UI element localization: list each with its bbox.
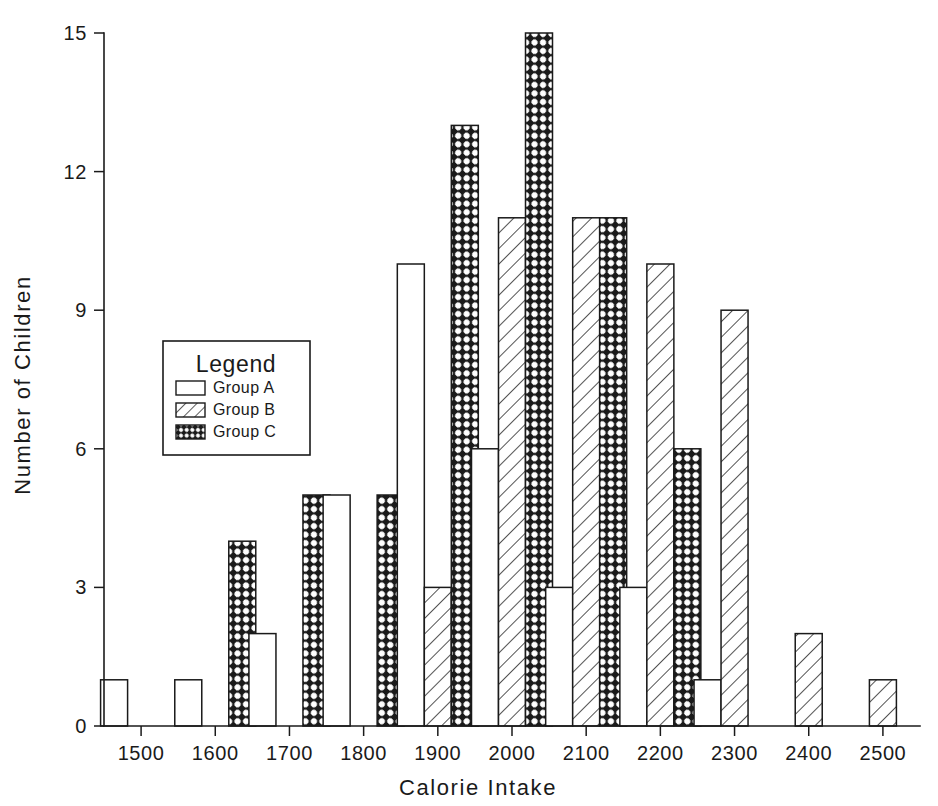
bar-group-b-1900 [424,587,451,726]
y-tick-label-6: 6 [75,438,87,460]
x-tick-label-2300: 2300 [711,742,758,764]
x-tick-label-1900: 1900 [414,742,461,764]
bar-group-a-2100 [546,587,573,726]
legend-swatch-group-b [176,403,205,417]
legend-title: Legend [196,351,276,377]
y-tick-label-15: 15 [64,22,87,44]
legend-label-group-c: Group C [213,423,276,440]
bar-group-a-1700 [249,634,276,726]
bar-group-a-2300 [694,680,721,726]
legend-swatch-group-a [176,381,205,395]
chart-legend: Legend Group A Group B Group C [163,341,310,455]
bar-group-b-2300 [721,310,748,726]
x-axis-title: Calorie Intake [399,775,557,800]
x-tick-label-2500: 2500 [859,742,906,764]
bar-group-a-1800 [323,495,350,726]
x-tick-label-2400: 2400 [785,742,832,764]
bar-group-b-2400 [795,634,822,726]
legend-label-group-a: Group A [213,379,275,396]
x-tick-label-1700: 1700 [266,742,313,764]
bar-group-a-1600 [175,680,202,726]
bar-group-a-1900 [397,264,424,726]
x-tick-label-2000: 2000 [489,742,536,764]
y-tick-label-3: 3 [75,576,87,598]
bar-group-b-2000 [499,218,526,726]
bar-group-b-2100 [573,218,600,726]
x-tick-label-1500: 1500 [118,742,165,764]
y-tick-label-0: 0 [75,715,87,737]
bar-group-a-2000 [472,449,499,726]
bar-group-b-2200 [647,264,674,726]
x-tick-label-1800: 1800 [340,742,387,764]
calorie-intake-bar-chart: 03691215 1500160017001800190020002100220… [0,0,938,806]
y-axis-title: Number of Children [10,275,35,495]
x-tick-label-2200: 2200 [637,742,684,764]
chart-canvas: 03691215 1500160017001800190020002100220… [0,0,938,806]
bar-group-b-2500 [869,680,896,726]
legend-swatch-group-c [176,425,205,439]
y-tick-label-12: 12 [64,161,87,183]
y-tick-label-9: 9 [75,299,87,321]
legend-label-group-b: Group B [213,401,275,418]
x-tick-label-1600: 1600 [192,742,239,764]
bar-group-a-2200 [620,587,647,726]
x-tick-label-2100: 2100 [563,742,610,764]
